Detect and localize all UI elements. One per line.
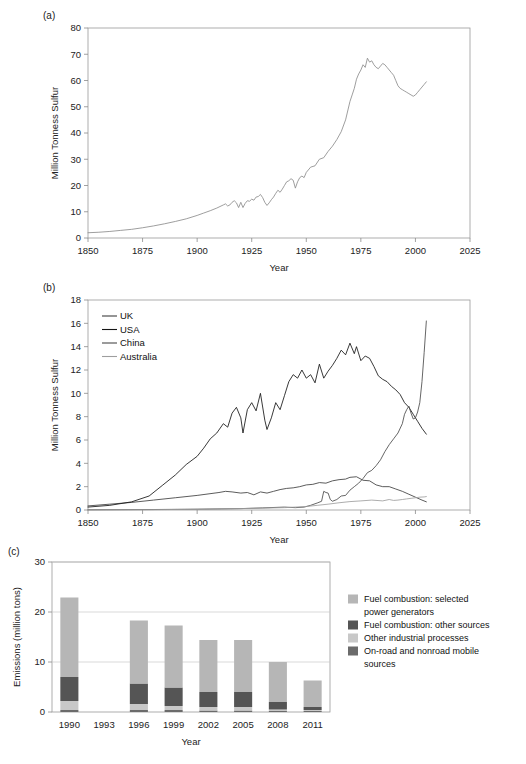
y-tick-label: 10 (34, 656, 45, 667)
panel-b-label: (b) (43, 282, 55, 293)
x-tick-label: 1850 (77, 245, 98, 256)
x-tick-label: 1950 (296, 517, 317, 528)
y-tick-label: 20 (70, 180, 81, 191)
x-tick-label: 2008 (267, 719, 288, 730)
bar-segment (234, 692, 252, 707)
bar-segment (269, 702, 287, 710)
bar-segment (130, 621, 148, 684)
y-tick-label: 60 (70, 75, 81, 86)
legend-label: Fuel combustion: other sources (364, 620, 490, 630)
legend-label-uk: UK (120, 310, 134, 321)
y-tick-label: 20 (34, 606, 45, 617)
panel-a-label: (a) (43, 10, 55, 21)
bar-segment (60, 710, 78, 712)
bar-segment (304, 711, 322, 712)
legend-label: Fuel combustion: selected (364, 594, 469, 604)
legend-swatch (348, 621, 358, 630)
y-tick-label: 14 (70, 341, 81, 352)
bar-segment (304, 707, 322, 710)
series-line-china (88, 321, 426, 510)
figure-container: (a) 010203040506070801850187519001925195… (0, 0, 526, 764)
legend-swatch (348, 647, 358, 656)
bar-segment (60, 677, 78, 701)
y-tick-label: 30 (34, 556, 45, 567)
y-axis-title: Million Tonness Sulfur (49, 359, 60, 451)
bar-segment (130, 710, 148, 712)
x-tick-label: 2005 (233, 719, 254, 730)
x-tick-label: 1975 (350, 517, 371, 528)
bar-segment (304, 681, 322, 708)
legend-label-usa: USA (120, 324, 140, 335)
y-tick-label: 8 (76, 411, 81, 422)
x-tick-label: 1925 (241, 517, 262, 528)
y-tick-label: 40 (70, 127, 81, 138)
panel-c-label: (c) (8, 546, 20, 557)
bar-segment (199, 640, 217, 692)
x-tick-label: 2000 (405, 517, 426, 528)
x-tick-label: 1990 (59, 719, 80, 730)
legend-label: power generators (364, 607, 435, 617)
legend-label: Other industrial processes (364, 633, 469, 643)
x-tick-label: 2025 (459, 245, 480, 256)
bar-segment (199, 692, 217, 707)
x-tick-label: 1875 (132, 517, 153, 528)
y-tick-label: 2 (76, 481, 81, 492)
x-tick-label: 1999 (163, 719, 184, 730)
x-tick-label: 2011 (302, 719, 322, 730)
x-tick-label: 2002 (198, 719, 219, 730)
legend-label-australia: Australia (120, 351, 158, 362)
x-tick-label: 1875 (132, 245, 153, 256)
y-tick-label: 4 (76, 458, 81, 469)
x-tick-label: 1900 (187, 517, 208, 528)
x-tick-label: 1925 (241, 245, 262, 256)
series-line-global-sulfur-emissions (88, 58, 426, 233)
y-tick-label: 50 (70, 101, 81, 112)
y-tick-label: 10 (70, 388, 81, 399)
y-tick-label: 30 (70, 154, 81, 165)
bar-segment (199, 711, 217, 713)
y-tick-label: 16 (70, 318, 81, 329)
y-tick-label: 18 (70, 294, 81, 305)
x-tick-label: 1850 (77, 517, 98, 528)
panel-a: (a) 010203040506070801850187519001925195… (0, 0, 526, 278)
y-tick-label: 80 (70, 22, 81, 33)
bar-segment (130, 684, 148, 705)
y-tick-label: 12 (70, 364, 81, 375)
bar-segment (60, 598, 78, 678)
bar-segment (304, 710, 322, 711)
legend-label: On-road and nonroad mobile (364, 646, 479, 656)
bar-segment (165, 706, 183, 710)
bar-segment (269, 662, 287, 702)
series-line-australia (88, 497, 426, 510)
legend-swatch (348, 595, 358, 604)
bar-segment (199, 707, 217, 711)
legend-label: sources (364, 659, 396, 669)
y-tick-label: 0 (76, 232, 81, 243)
y-tick-label: 10 (70, 206, 81, 217)
bar-segment (130, 704, 148, 710)
x-tick-label: 1975 (350, 245, 371, 256)
panel-b: (b) 024681012141618185018751900192519501… (0, 272, 526, 550)
bar-segment (60, 701, 78, 710)
y-tick-label: 0 (76, 504, 81, 515)
y-tick-label: 6 (76, 434, 81, 445)
panel-c-chart: 010203019901993199619992002200520082011Y… (0, 540, 526, 764)
y-tick-label: 0 (40, 706, 45, 717)
y-axis-title: Emissions (million tons) (11, 587, 22, 687)
x-tick-label: 1993 (94, 719, 115, 730)
x-tick-label: 2025 (459, 517, 480, 528)
bar-segment (269, 710, 287, 712)
bar-segment (234, 711, 252, 713)
y-tick-label: 70 (70, 49, 81, 60)
x-tick-label: 2000 (405, 245, 426, 256)
bar-segment (165, 688, 183, 707)
bar-segment (165, 626, 183, 688)
series-line-usa (88, 343, 426, 507)
x-tick-label: 1900 (187, 245, 208, 256)
x-axis-title: Year (181, 736, 200, 747)
bar-segment (269, 711, 287, 712)
legend-label-china: China (120, 337, 146, 348)
bar-segment (234, 640, 252, 692)
panel-b-chart: 0246810121416181850187519001925195019752… (0, 272, 526, 550)
x-tick-label: 1996 (128, 719, 149, 730)
